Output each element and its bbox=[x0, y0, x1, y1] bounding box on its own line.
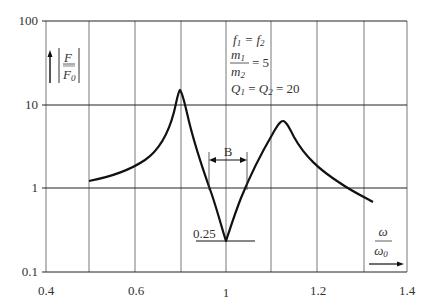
y-tick-1: 1 bbox=[32, 180, 39, 195]
param-q-values: Q1 = Q2 = 20 bbox=[231, 81, 299, 97]
bandwidth-marker: B bbox=[209, 144, 247, 190]
x-label-denominator: ω0 bbox=[374, 243, 388, 259]
param-m1: m1 bbox=[231, 47, 245, 63]
y-label-denominator: F0 bbox=[62, 67, 76, 83]
x-axis-labels: 0.4 0.6 1 1.2 1.4 bbox=[38, 283, 416, 300]
chart: 100 10 1 0.1 0.4 0.6 1 1.2 1.4 F F0 f1 =… bbox=[0, 0, 434, 308]
x-label-numerator: ω bbox=[378, 224, 387, 239]
y-axis-label: F F0 bbox=[48, 48, 80, 83]
right-arrow-head-icon bbox=[397, 262, 404, 267]
param-f1-equals-f2: f1 = f2 bbox=[233, 32, 265, 48]
parameters-annotation: f1 = f2 m1 m2 = 5 Q1 = Q2 = 20 bbox=[230, 32, 299, 97]
param-m2: m2 bbox=[231, 64, 245, 80]
y-label-numerator: F bbox=[63, 50, 73, 65]
y-tick-10: 10 bbox=[25, 97, 38, 112]
x-tick-0-4: 0.4 bbox=[38, 283, 55, 298]
minimum-value-label: 0.25 bbox=[193, 226, 216, 241]
right-arrow-icon bbox=[240, 157, 247, 163]
x-tick-1-4: 1.4 bbox=[399, 283, 416, 298]
response-curve bbox=[89, 90, 373, 241]
x-axis-label: ω ω0 bbox=[369, 224, 404, 267]
y-axis-labels: 100 10 1 0.1 bbox=[19, 13, 39, 279]
y-tick-0-1: 0.1 bbox=[22, 264, 38, 279]
x-tick-1-2: 1.2 bbox=[310, 283, 326, 298]
left-arrow-icon bbox=[209, 157, 216, 163]
x-tick-0-6: 0.6 bbox=[128, 283, 145, 298]
up-arrow-head-icon bbox=[48, 50, 53, 57]
bandwidth-label: B bbox=[224, 144, 233, 159]
param-mass-ratio-value: = 5 bbox=[252, 55, 269, 70]
x-tick-1: 1 bbox=[223, 285, 230, 300]
y-tick-100: 100 bbox=[19, 13, 39, 28]
